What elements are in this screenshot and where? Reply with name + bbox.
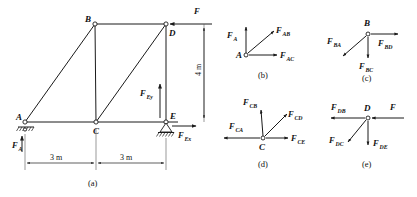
force-arrow-FDC-e	[348, 120, 366, 142]
panel-label-b: (b)	[258, 70, 268, 80]
joint-A-fbd	[244, 53, 248, 57]
force-label-FDE-e: F	[372, 138, 379, 148]
force-sub-FBD-c: BD	[384, 44, 394, 50]
force-sub-FAB-b: AB	[282, 31, 291, 37]
member-BC	[95, 24, 96, 122]
panel-label-c: (c)	[362, 73, 372, 83]
force-sub-FBC-c: BC	[365, 67, 374, 73]
dimension-label-4m: 4 m	[194, 63, 203, 76]
panel-label-d: (d)	[258, 159, 268, 169]
force-sub-FCE-d: CE	[298, 139, 306, 145]
force-label-FBA-c: F	[326, 36, 333, 46]
panel-label-a: (a)	[88, 178, 98, 188]
force-sub-FDC-e: DC	[335, 141, 344, 147]
force-sub-FA-b: A	[233, 36, 238, 42]
force-sub-FAC-b: AC	[286, 56, 295, 62]
force-label-FCA-d: F	[228, 121, 235, 131]
force-sub-FCA-d: CA	[236, 127, 244, 133]
joint-D-fbd	[366, 116, 370, 120]
member-AB	[25, 24, 95, 122]
joint-B	[93, 22, 97, 26]
node-label-B: B	[84, 14, 91, 24]
dimension-label-3m-right: 3 m	[120, 153, 133, 162]
force-label-FDC-e: F	[328, 135, 335, 145]
joint-C-fbd-label: C	[259, 142, 266, 152]
panel-label-e: (e)	[362, 159, 372, 169]
member-CD	[96, 24, 166, 122]
force-sub-FBA-c: BA	[333, 42, 342, 48]
node-label-C: C	[93, 126, 100, 136]
force-label-FCE-d: F	[290, 133, 297, 143]
truss-figure: A B C D E F F A F Ey F Ex 4 m	[0, 0, 417, 197]
joint-B-fbd	[366, 32, 370, 36]
figure-canvas: A B C D E F F A F Ey F Ex 4 m	[0, 0, 417, 197]
force-sub-FCB-d: CB	[250, 103, 258, 109]
force-label-FDB-e: F	[330, 102, 337, 112]
force-arrow-FBA-c	[343, 36, 366, 56]
force-sub-FDE-e: DE	[379, 144, 388, 150]
joint-D	[164, 22, 168, 26]
force-label-FAC-b: F	[279, 50, 286, 60]
node-label-D: D	[168, 28, 176, 38]
joint-C-fbd	[261, 136, 265, 140]
force-label-FBC-c: F	[358, 61, 365, 71]
node-label-A: A	[15, 112, 22, 122]
dimension-height-4m: 4 m	[194, 24, 204, 122]
force-label-FCB-d: F	[242, 97, 249, 107]
force-label-F-main: F	[193, 6, 200, 16]
force-label-FEy-main: F	[139, 88, 146, 98]
panel-d-joint-C: C F CB F CD F CA F CE (d)	[224, 97, 305, 169]
force-arrow-FAB-b	[248, 31, 274, 53]
panel-e-joint-D: D F DB F F DC F DE (e)	[328, 102, 404, 169]
force-sub-FA-main: A	[18, 146, 23, 152]
force-label-FEx-main: F	[177, 130, 184, 140]
panel-b-joint-A: A F A F AB F AC (b)	[226, 25, 294, 80]
force-sub-FCD-d: CD	[295, 115, 304, 121]
dimension-label-3m-left: 3 m	[50, 153, 63, 162]
node-label-E: E	[169, 111, 176, 121]
joint-D-fbd-label: D	[363, 103, 371, 113]
panel-a-truss: A B C D E F F A F Ey F Ex 4 m	[11, 6, 212, 188]
force-sub-FEy-main: Ey	[146, 94, 154, 100]
force-label-FBD-c: F	[377, 38, 384, 48]
force-label-FA-main: F	[11, 140, 18, 150]
panel-c-joint-B: B F BA F BD F BC (c)	[326, 18, 398, 83]
support-E	[157, 123, 175, 137]
joint-B-fbd-label: B	[363, 18, 370, 28]
joint-C	[94, 120, 98, 124]
force-label-FCD-d: F	[287, 109, 294, 119]
force-sub-FDB-e: DB	[337, 108, 346, 114]
force-arrow-FCB-d	[261, 110, 263, 136]
force-label-F-e: F	[389, 102, 396, 112]
support-A	[17, 127, 35, 131]
force-label-FA-b: F	[226, 30, 233, 40]
force-arrow-FCD-d	[265, 114, 287, 136]
joint-A-fbd-label: A	[235, 50, 242, 60]
joint-A	[23, 120, 27, 124]
force-sub-FEx-main: Ex	[184, 136, 192, 142]
force-label-FAB-b: F	[275, 25, 282, 35]
